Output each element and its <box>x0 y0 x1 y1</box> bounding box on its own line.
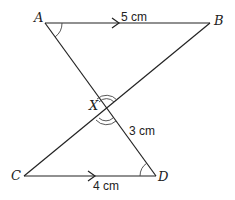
length-label-xd: 3 cm <box>129 124 155 138</box>
angle-arc-d <box>140 163 147 176</box>
point-label-c: C <box>11 168 21 183</box>
point-label-d: D <box>157 169 169 184</box>
point-label-x: X <box>88 98 99 113</box>
length-label-cd: 4 cm <box>93 179 119 193</box>
point-label-a: A <box>33 10 43 25</box>
similar-triangles-diagram: A B X C D 5 cm 3 cm 4 cm <box>0 0 235 200</box>
point-label-b: B <box>213 13 224 28</box>
angle-arc-x-bottom-inner <box>99 118 113 121</box>
length-label-ab: 5 cm <box>121 10 147 24</box>
angle-arc-a <box>55 23 62 37</box>
segment-ad <box>45 23 156 176</box>
